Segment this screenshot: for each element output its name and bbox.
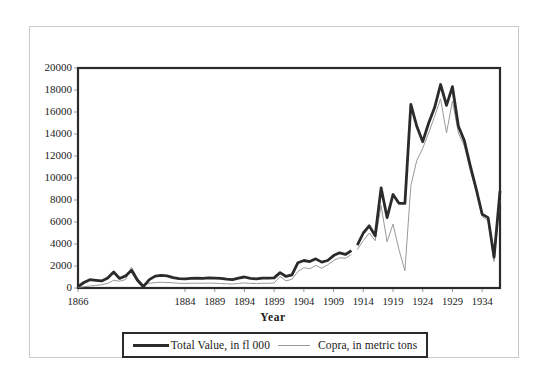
legend-label-copra: Copra, in metric tons — [318, 339, 417, 351]
y-axis-tick-label: 4000 — [26, 238, 72, 249]
y-axis-tick-label: 6000 — [26, 216, 72, 227]
line-chart-plot — [0, 0, 546, 384]
y-axis-tick-label: 18000 — [26, 84, 72, 95]
legend-label-total-value: Total Value, in fl 000 — [171, 339, 270, 351]
y-axis-tick-label: 8000 — [26, 194, 72, 205]
series-line — [357, 85, 500, 258]
chart-figure: 0200040006000800010000120001400016000180… — [0, 0, 546, 384]
y-axis-tick-label: 0 — [26, 282, 72, 293]
legend-entry-total-value: Total Value, in fl 000 — [133, 339, 270, 351]
series-line — [78, 254, 351, 287]
legend-entry-copra: Copra, in metric tons — [270, 339, 417, 351]
x-axis-tick-label: 1866 — [58, 296, 98, 307]
legend-line-swatch-total-value — [133, 344, 169, 347]
y-axis-tick-label: 14000 — [26, 128, 72, 139]
y-axis-tick-label: 10000 — [26, 172, 72, 183]
chart-legend: Total Value, in fl 000 Copra, in metric … — [122, 332, 428, 358]
axis-tick-marks — [74, 68, 482, 292]
y-axis-tick-label: 16000 — [26, 106, 72, 117]
y-axis-tick-label: 12000 — [26, 150, 72, 161]
x-axis-title: Year — [0, 311, 546, 323]
y-axis-tick-label: 20000 — [26, 62, 72, 73]
data-series-group — [78, 85, 500, 288]
y-axis-tick-label: 2000 — [26, 260, 72, 271]
x-axis-tick-label: 1934 — [462, 296, 502, 307]
legend-line-swatch-copra — [278, 345, 310, 346]
